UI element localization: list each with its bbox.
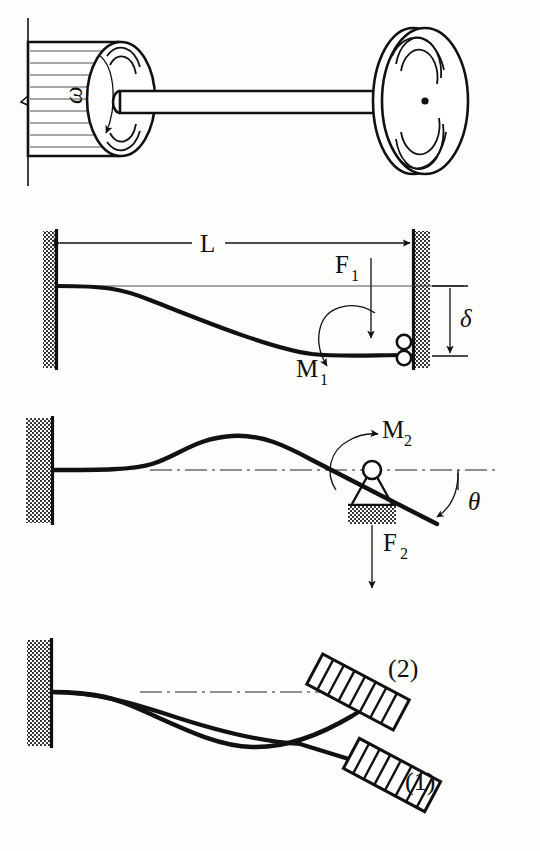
left-wall-hatch (43, 231, 56, 368)
left-wall-hatch-p4 (27, 640, 50, 746)
label-M2: M (382, 416, 404, 443)
deflected-beam (57, 286, 410, 356)
label-delta: δ (460, 305, 472, 332)
mode-shape-2-curve (52, 692, 380, 776)
figure-root: ω L F 1 M 1 δ (0, 0, 540, 851)
label-mode-2: (2) (388, 654, 418, 683)
mode-shape-1-curve (52, 692, 382, 747)
label-theta: θ (468, 488, 480, 515)
right-wall-hatch (415, 231, 430, 368)
pin-circle (363, 461, 381, 479)
label-L: L (200, 230, 215, 257)
engineering-figure: ω L F 1 M 1 δ (0, 0, 540, 851)
roller-lower (397, 351, 411, 365)
shaft (120, 91, 392, 113)
flywheel-center-dot (421, 97, 428, 104)
label-mode-1: (1) (405, 767, 435, 796)
label-F1: F (335, 251, 349, 278)
panel-mode-shapes: (2) (1) (27, 638, 441, 812)
theta-arc-arrow (437, 473, 458, 517)
panel-beam-f2-m2: M 2 F 2 θ (26, 416, 500, 588)
label-F2-subscript: 2 (400, 545, 408, 562)
left-wall-hatch-p3 (26, 418, 51, 523)
pin-ground-hatch (348, 506, 396, 524)
omega-label: ω (60, 86, 87, 104)
panel-rotor: ω (21, 18, 468, 186)
label-M2-subscript: 2 (404, 432, 412, 449)
roller-upper (397, 335, 411, 349)
label-F2: F (383, 529, 397, 556)
label-F1-subscript: 1 (351, 267, 359, 284)
label-M1: M (296, 355, 318, 382)
label-M1-subscript: 1 (320, 371, 328, 388)
panel-beam-f1-m1: L F 1 M 1 δ (43, 229, 472, 388)
